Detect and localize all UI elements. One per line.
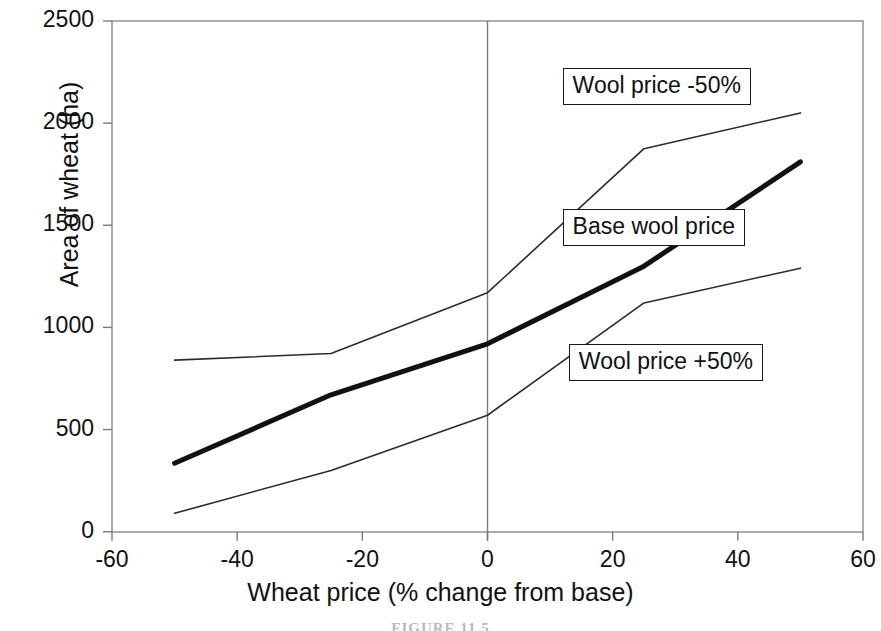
series-annotation-box: Base wool price xyxy=(563,209,745,245)
y-axis-title: Area of wheat (ha) xyxy=(55,20,84,350)
x-tick-label: 60 xyxy=(818,546,881,573)
series-annotation-box: Wool price +50% xyxy=(569,344,763,380)
x-tick-label: 20 xyxy=(568,546,658,573)
y-axis-ticks xyxy=(103,21,112,532)
x-tick-label: -60 xyxy=(67,546,157,573)
series-annotation-box: Wool price -50% xyxy=(563,68,751,104)
x-tick-label: 40 xyxy=(693,546,783,573)
x-tick-label: -20 xyxy=(317,546,407,573)
x-axis-title: Wheat price (% change from base) xyxy=(0,578,881,607)
x-tick-label: -40 xyxy=(192,546,282,573)
figure-caption: FIGURE 11.5 xyxy=(0,620,881,631)
figure-container: 05001000150020002500 -60-40-200204060 Ar… xyxy=(0,0,881,631)
y-tick-label: 0 xyxy=(0,517,94,544)
x-tick-label: 0 xyxy=(443,546,533,573)
y-tick-label: 500 xyxy=(0,415,94,442)
